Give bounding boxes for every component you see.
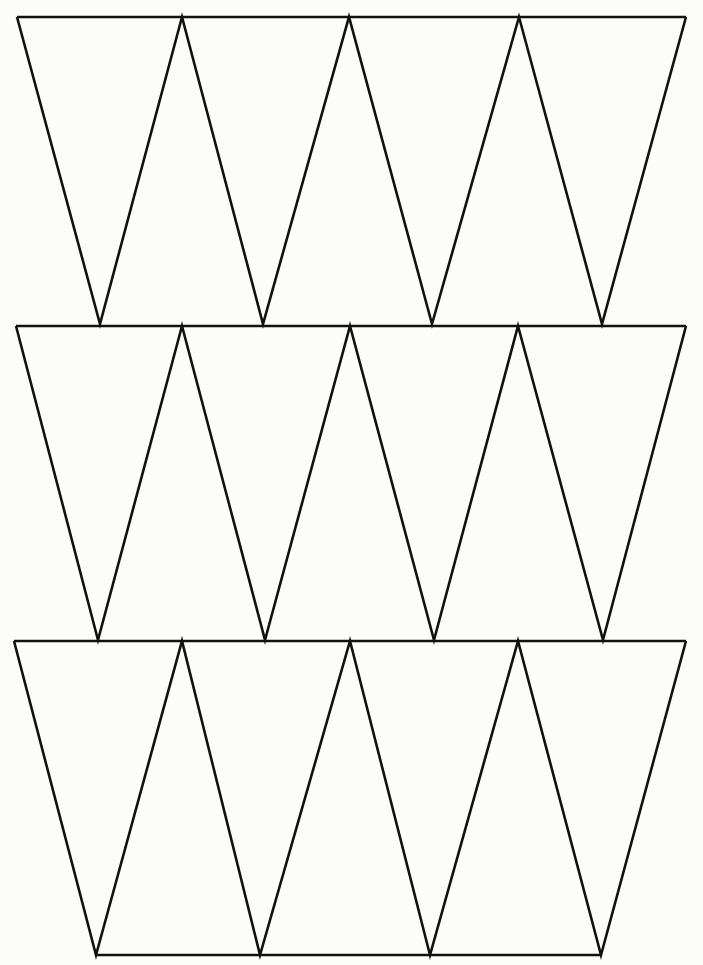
pennant-zigzag bbox=[14, 641, 686, 955]
triangle-rows bbox=[14, 17, 686, 955]
pennant-row-3 bbox=[14, 641, 686, 955]
pennant-row-2 bbox=[16, 326, 686, 640]
bunting-template bbox=[0, 0, 703, 965]
pennant-zigzag bbox=[17, 17, 686, 324]
pennant-row-1 bbox=[17, 17, 686, 324]
pennant-zigzag bbox=[16, 326, 686, 640]
